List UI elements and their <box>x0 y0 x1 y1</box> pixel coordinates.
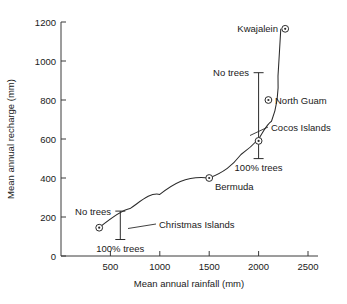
x-tick-label-500: 500 <box>102 261 118 272</box>
y-tick-label-0: 0 <box>51 251 56 262</box>
y-tick-label-1000: 1000 <box>35 56 56 67</box>
leader-line-christmas-islands <box>128 224 156 229</box>
marker-dot-christmas-islands <box>98 227 100 229</box>
point-label-kwajalein: Kwajalein <box>237 23 278 34</box>
y-tick-label-1200: 1200 <box>35 17 56 28</box>
marker-dot-cocos-islands <box>258 140 260 142</box>
data-point-christmas-islands[interactable] <box>96 224 103 231</box>
y-axis-title: Mean annual recharge (mm) <box>5 79 16 199</box>
chart-figure: 0 200 400 600 800 1000 1200 500 1000 150… <box>0 0 347 304</box>
annotation-no-trees-upper: No trees <box>213 67 249 78</box>
error-bar-cocos-islands <box>254 73 264 159</box>
point-label-north-guam: North Guam <box>275 95 327 106</box>
annotation-no-trees-lower: No trees <box>75 206 111 217</box>
y-axis-ticks <box>61 22 66 256</box>
y-axis-tick-labels: 0 200 400 600 800 1000 1200 <box>35 17 56 262</box>
point-label-christmas-islands: Christmas Islands <box>159 219 235 230</box>
marker-dot-kwajalein <box>284 28 286 30</box>
x-tick-label-2000: 2000 <box>248 261 269 272</box>
marker-dot-bermuda <box>208 177 210 179</box>
annotation-full-trees-lower: 100% trees <box>96 243 144 254</box>
y-tick-label-800: 800 <box>40 95 56 106</box>
y-tick-label-400: 400 <box>40 173 56 184</box>
data-point-bermuda[interactable] <box>206 175 213 182</box>
x-tick-label-1000: 1000 <box>149 261 170 272</box>
x-tick-label-1500: 1500 <box>199 261 220 272</box>
y-tick-label-600: 600 <box>40 134 56 145</box>
data-point-cocos-islands[interactable] <box>255 138 262 145</box>
fit-curve <box>99 29 281 228</box>
data-point-kwajalein[interactable] <box>282 25 289 32</box>
y-tick-label-200: 200 <box>40 212 56 223</box>
x-tick-label-2500: 2500 <box>297 261 318 272</box>
point-label-bermuda: Bermuda <box>215 181 254 192</box>
marker-dot-north-guam <box>267 99 269 101</box>
point-label-cocos-islands: Cocos Islands <box>271 122 331 133</box>
recharge-vs-rainfall-scatter: 0 200 400 600 800 1000 1200 500 1000 150… <box>0 0 347 304</box>
x-axis-title: Mean annual rainfall (mm) <box>134 278 244 289</box>
data-point-north-guam[interactable] <box>265 97 272 104</box>
annotation-full-trees-upper: 100% trees <box>235 162 283 173</box>
x-axis-tick-labels: 500 1000 1500 2000 2500 <box>102 261 318 272</box>
